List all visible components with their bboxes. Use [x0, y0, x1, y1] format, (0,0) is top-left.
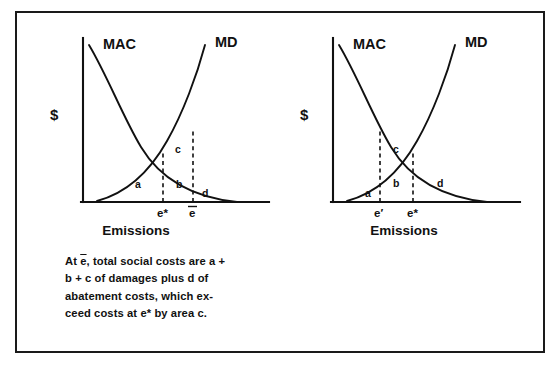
left-mac-label: MAC — [103, 36, 137, 52]
left-x-axis-label: Emissions — [102, 223, 170, 238]
left-md-label: MD — [215, 34, 238, 50]
right-md-label: MD — [465, 34, 488, 50]
left-area-label-a: a — [135, 178, 141, 190]
left-y-axis-label: $ — [50, 106, 59, 123]
right-area-label-d: d — [437, 177, 443, 189]
right-x-axis-label: Emissions — [370, 223, 438, 238]
right-area-label-c: c — [393, 143, 399, 155]
left-area-label-b: b — [176, 178, 182, 190]
left-caption-line-3: abatement costs, which ex- — [65, 288, 265, 305]
left-tick-e-star: e* — [157, 207, 168, 219]
left-tick-e-bar-text: e — [189, 207, 195, 219]
left-tick-e-bar: e — [188, 207, 197, 220]
panel-left: MAC MD $ a b c d e* e Emissions At e, to… — [17, 13, 282, 355]
left-chart: MAC MD $ a b c d e* e Emissions — [17, 13, 282, 243]
left-md-curve — [97, 45, 205, 201]
right-tick-e-star: e* — [407, 207, 418, 219]
left-caption: At e, total social costs are a + b + c o… — [65, 253, 265, 323]
right-area-label-b: b — [393, 177, 399, 189]
left-caption-line-2: b + c of damages plus d of — [65, 270, 265, 287]
right-y-axis-label: $ — [300, 106, 309, 123]
left-area-label-c: c — [175, 143, 181, 155]
figure-border: MAC MD $ a b c d e* e Emissions At e, to… — [15, 11, 545, 353]
right-area-label-a: a — [365, 187, 371, 199]
left-caption-line-1: At e, total social costs are a + — [65, 253, 265, 270]
right-chart: MAC MD $ a b c d e′ e* Emissions — [282, 13, 547, 243]
e-bar-glyph: e — [80, 255, 86, 267]
panel-right: MAC MD $ a b c d e′ e* Emissions At e′, … — [282, 13, 547, 355]
left-area-label-d: d — [202, 187, 208, 199]
right-mac-label: MAC — [353, 36, 387, 52]
right-tick-e-prime: e′ — [374, 207, 383, 219]
left-caption-line-4: ceed costs at e* by area c. — [65, 305, 265, 322]
